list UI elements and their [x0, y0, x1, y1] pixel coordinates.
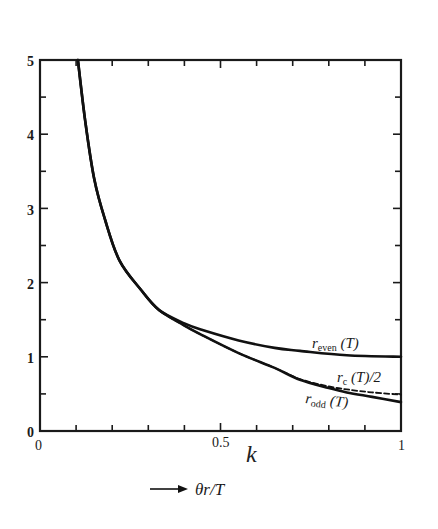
r-odd-arg: (T)	[325, 392, 349, 411]
handwritten-mark: k	[246, 441, 257, 467]
y-tick-label-2: 2	[27, 277, 34, 292]
x-axis-arrow-icon	[178, 485, 188, 493]
r-even-arg: (T)	[337, 335, 359, 352]
r-even-subscript: even	[318, 342, 337, 353]
y-tick-label-5: 5	[27, 54, 34, 69]
x-tick-label-1: 1	[398, 438, 405, 453]
y-tick-label-3: 3	[27, 203, 34, 218]
y-tick-label-1: 1	[27, 351, 34, 366]
x-tick-label-0: 0	[35, 438, 42, 453]
label-r-even: reven (T)	[312, 335, 359, 353]
r-odd-subscript: odd	[310, 398, 326, 411]
r-c-arg: (T)/2	[347, 369, 381, 386]
x-axis-label: θr/T	[195, 480, 226, 499]
x-tick-label-0.5: 0.5	[212, 435, 230, 450]
line-chart: 5 4 3 2 1 0 0 0.5 1 k reven (T) rc (T)/2…	[0, 0, 438, 529]
label-r-c-half: rc (T)/2	[337, 369, 382, 387]
y-tick-label-0: 0	[27, 425, 34, 440]
label-r-odd: rodd (T)	[304, 390, 349, 412]
y-tick-label-4: 4	[27, 128, 34, 143]
curve-r-even-t	[78, 60, 401, 357]
